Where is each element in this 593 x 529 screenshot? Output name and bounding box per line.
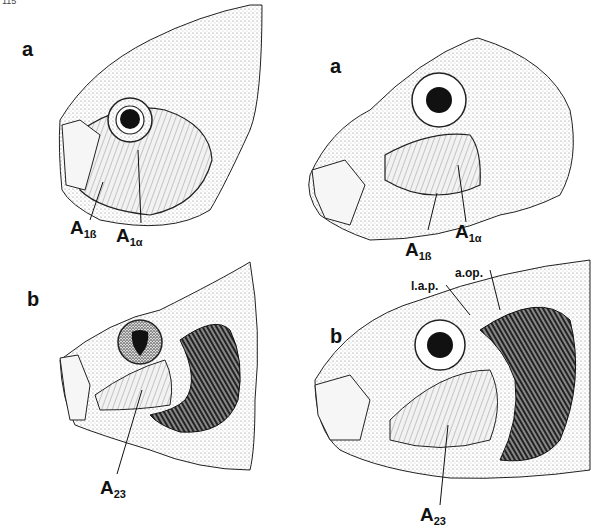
muscle-label-a23-bottom-left: A23 [100, 478, 126, 500]
fish-head-illustrations [0, 0, 593, 529]
panel-label-bottom-right: b [330, 325, 342, 348]
head-bottom-right [315, 260, 590, 505]
annotation-lap: l.a.p. [411, 279, 438, 293]
annotation-aop: a.op. [455, 266, 483, 280]
muscle-label-a1b-top-right: A1ß [405, 240, 432, 262]
panel-label-top-right: a [330, 55, 341, 78]
panel-label-bottom-left: b [27, 288, 39, 311]
muscle-label-a1b-top-left: A1ß [70, 218, 97, 240]
head-bottom-left [60, 262, 258, 474]
muscle-label-a1a-top-right: A1α [455, 222, 482, 244]
panel-label-top-left: a [22, 38, 33, 61]
head-top-right [309, 38, 574, 240]
muscle-label-a23-bottom-right: A23 [420, 505, 446, 527]
muscle-label-a1a-top-left: A1α [116, 226, 143, 248]
head-top-left [59, 5, 262, 226]
